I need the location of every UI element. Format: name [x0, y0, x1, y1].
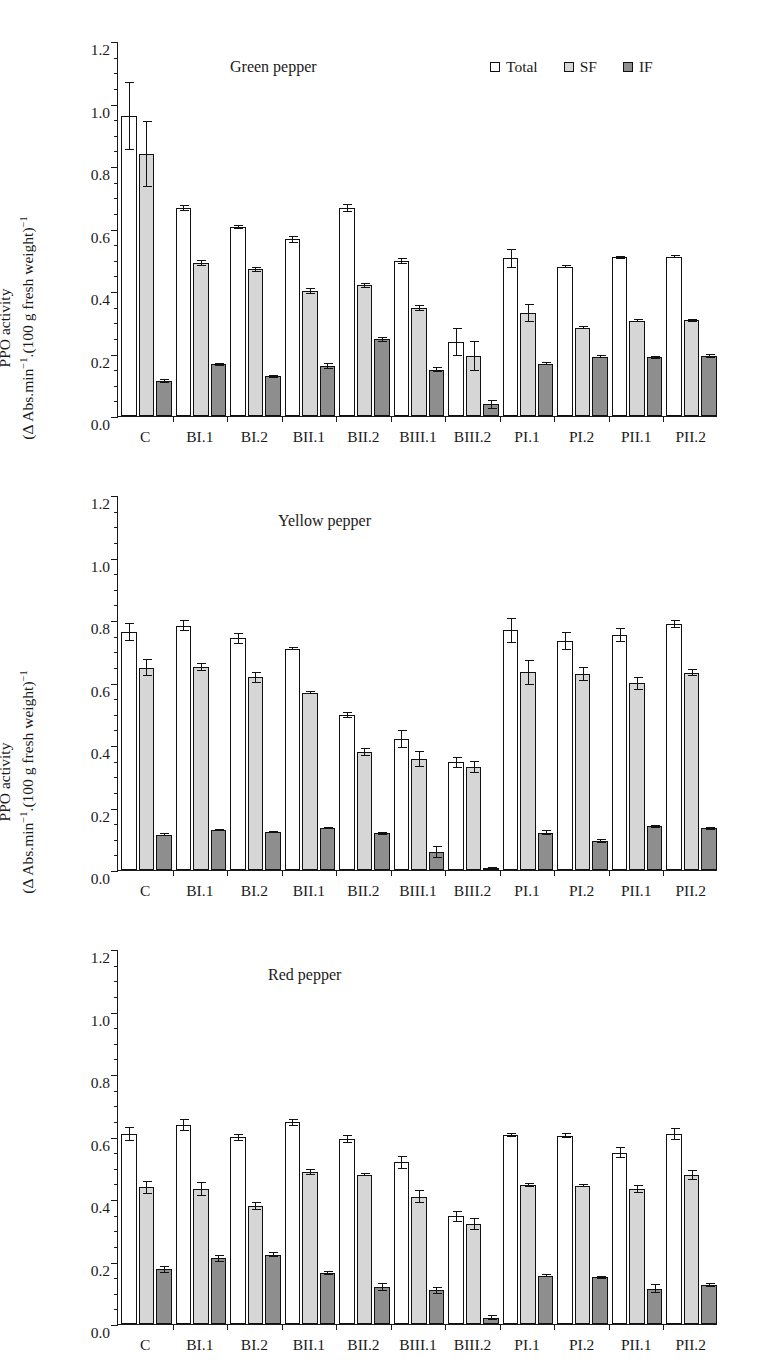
error-bar-cap-top	[688, 319, 697, 320]
plot-area: 0.00.20.40.60.81.01.2CBI.1BI.2BII.1BII.2…	[117, 950, 717, 1325]
x-axis-label-bi-2: BI.2	[241, 882, 268, 900]
x-axis-tick	[554, 416, 555, 422]
error-bar-cap-bottom	[343, 1142, 352, 1143]
bar-total	[339, 208, 355, 416]
x-axis-label-pi-1: PI.1	[514, 1336, 539, 1354]
error-bar-cap-bottom	[616, 641, 625, 642]
error-bar-cap-top	[197, 1182, 206, 1183]
error-bar-cap-bottom	[180, 630, 189, 631]
bar-total	[339, 715, 355, 870]
error-bar-cap-top	[289, 236, 298, 237]
error-bar	[419, 1190, 420, 1203]
x-axis-label-pi-2: PI.2	[569, 428, 594, 446]
bar-if	[265, 1255, 281, 1324]
error-bar	[674, 255, 675, 258]
error-bar	[310, 288, 311, 294]
bar-group	[173, 950, 228, 1324]
error-bar-cap-top	[562, 632, 571, 633]
y-axis-tick-label: 0.0	[91, 1325, 110, 1341]
bar-sf	[629, 321, 645, 416]
x-axis-tick	[227, 1324, 228, 1330]
error-bar	[474, 341, 475, 371]
error-bar-cap-top	[579, 326, 588, 327]
x-axis-tick	[663, 1324, 664, 1330]
bar-group	[609, 496, 664, 870]
error-bar	[273, 375, 274, 378]
error-bar	[183, 205, 184, 211]
error-bar-cap-top	[343, 1135, 352, 1136]
error-bar-cap-bottom	[415, 1202, 424, 1203]
error-bar	[327, 1271, 328, 1275]
error-bar-cap-bottom	[398, 747, 407, 748]
error-bar-cap-top	[688, 669, 697, 670]
error-bar	[528, 660, 529, 685]
bar-if	[156, 1269, 172, 1324]
error-bar	[655, 356, 656, 359]
error-bar	[327, 827, 328, 830]
x-axis-label-biii-1: BIII.1	[399, 1336, 436, 1354]
error-bar-cap-bottom	[688, 1179, 697, 1180]
error-bar-cap-bottom	[542, 834, 551, 835]
x-axis-tick	[227, 416, 228, 422]
x-axis-tick	[282, 416, 283, 422]
error-bar	[528, 304, 529, 323]
bar-group	[445, 496, 500, 870]
error-bar-cap-top	[361, 748, 370, 749]
error-bar-cap-bottom	[706, 829, 715, 830]
error-bar	[474, 761, 475, 774]
bar-group	[282, 496, 337, 870]
error-bar-cap-top	[433, 367, 442, 368]
y-axis-tick	[111, 684, 118, 685]
y-axis-tick	[111, 42, 118, 43]
error-bar	[364, 283, 365, 288]
error-bar-cap-top	[269, 1252, 278, 1253]
error-bar-cap-top	[706, 354, 715, 355]
error-bar	[620, 1147, 621, 1158]
error-bar-cap-bottom	[579, 680, 588, 681]
error-bar	[218, 1255, 219, 1261]
x-axis-tick	[554, 1324, 555, 1330]
error-bar	[565, 1133, 566, 1137]
bar-sf	[575, 674, 591, 870]
error-bar	[292, 1119, 293, 1127]
x-axis-label-bi-1: BI.1	[186, 882, 213, 900]
error-bar	[491, 1315, 492, 1320]
bar-if	[265, 376, 281, 416]
error-bar-cap-top	[634, 677, 643, 678]
error-bar-cap-top	[324, 363, 333, 364]
error-bar-cap-bottom	[143, 186, 152, 187]
error-bar-cap-bottom	[616, 1157, 625, 1158]
error-bar	[637, 677, 638, 690]
x-axis-tick	[227, 870, 228, 876]
y-axis-tick-label: 0.4	[91, 292, 110, 308]
error-bar-cap-top	[671, 255, 680, 256]
y-axis-tick-label: 1.2	[91, 950, 110, 966]
x-axis-label-biii-2: BIII.2	[454, 428, 491, 446]
x-axis-tick	[663, 870, 664, 876]
error-bar-cap-top	[306, 288, 315, 289]
bar-group	[663, 950, 718, 1324]
error-bar	[692, 319, 693, 322]
error-bar-cap-top	[525, 1183, 534, 1184]
error-bar-cap-top	[651, 1284, 660, 1285]
bar-if	[320, 1273, 336, 1324]
error-bar	[364, 748, 365, 756]
chart-panel-red-pepper: PPO activity(Δ Abs.min−1.(100 g fresh we…	[0, 908, 769, 1362]
x-axis-label-bii-1: BII.1	[293, 428, 325, 446]
error-bar-cap-top	[215, 363, 224, 364]
error-bar-cap-bottom	[180, 1130, 189, 1131]
error-bar-cap-top	[197, 663, 206, 664]
y-axis-tick	[111, 746, 118, 747]
error-bar	[164, 379, 165, 383]
y-axis-tick-label: 0.0	[91, 871, 110, 887]
y-axis-tick-label: 1.0	[91, 1012, 110, 1028]
bar-group	[609, 42, 664, 416]
error-bar-cap-bottom	[470, 772, 479, 773]
bar-if	[265, 832, 281, 870]
bar-total	[612, 1153, 628, 1324]
error-bar-cap-top	[234, 633, 243, 634]
x-axis-tick	[445, 1324, 446, 1330]
bar-total	[176, 626, 192, 870]
error-bar-cap-top	[180, 620, 189, 621]
bar-total	[230, 1137, 246, 1324]
